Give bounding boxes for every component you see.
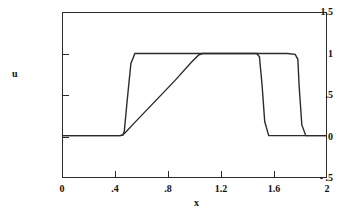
y-tick-2 <box>62 95 69 96</box>
y-tick-label-3: 0 <box>277 132 333 142</box>
y-tick-label-1: 1 <box>277 49 333 59</box>
x-tick-3 <box>221 171 222 178</box>
x-tick-4 <box>274 171 275 178</box>
y-tick-label-2: .5 <box>277 90 333 100</box>
x-tick-2 <box>168 171 169 178</box>
x-tick-label-0: 0 <box>42 184 82 194</box>
y-tick-label-4: - .5 <box>277 173 333 183</box>
y-tick-3 <box>62 137 69 138</box>
x-tick-1 <box>115 171 116 178</box>
x-axis-label: x <box>0 197 333 208</box>
y-tick-label-0: 1.5 <box>277 7 333 17</box>
x-tick-label-2: .8 <box>148 184 188 194</box>
chart-title: u vs x <box>0 0 333 1</box>
y-axis-label: u <box>12 68 18 79</box>
y-tick-1 <box>62 54 69 55</box>
x-tick-label-5: 2 <box>307 184 338 194</box>
x-tick-label-1: .4 <box>95 184 135 194</box>
x-tick-label-4: 1.6 <box>254 184 294 194</box>
x-tick-label-3: 1.2 <box>201 184 241 194</box>
